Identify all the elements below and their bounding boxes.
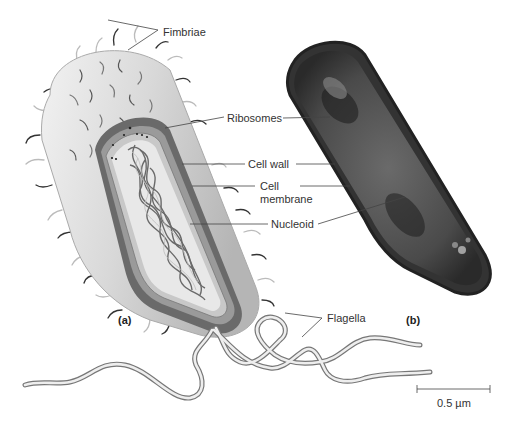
figure-artwork xyxy=(0,0,509,421)
micrograph-bacterium xyxy=(285,35,505,305)
panel-label-b: (b) xyxy=(406,314,420,326)
bacterial-cell-figure: Fimbriae Ribosomes Cell wall Cell membra… xyxy=(0,0,509,421)
label-fimbriae: Fimbriae xyxy=(163,26,206,38)
label-nucleoid: Nucleoid xyxy=(271,218,314,230)
panel-label-a: (a) xyxy=(118,314,131,326)
label-cell-membrane-line2: membrane xyxy=(260,193,313,205)
label-cell-membrane-line1: Cell xyxy=(260,180,279,192)
label-flagella: Flagella xyxy=(327,312,366,324)
label-ribosomes: Ribosomes xyxy=(227,112,282,124)
label-cell-wall: Cell wall xyxy=(248,158,289,170)
scale-bar-label: 0.5 µm xyxy=(437,397,471,409)
